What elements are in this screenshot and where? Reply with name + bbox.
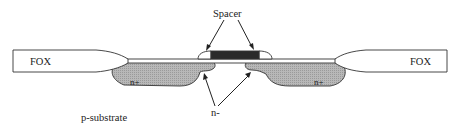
spacer-arrows <box>206 20 254 51</box>
fox-left-label: FOX <box>30 56 51 67</box>
n-minus-label: n- <box>211 107 220 118</box>
n-plus-region-left <box>112 62 215 86</box>
n-plus-region-right <box>245 62 345 86</box>
spacer-right <box>259 51 272 59</box>
fox-right-label: FOX <box>410 56 431 67</box>
thin-oxide-layer <box>118 59 344 63</box>
spacer-left <box>198 51 211 59</box>
spacer-label: Spacer <box>213 8 242 19</box>
n-plus-left-label: n+ <box>130 77 140 87</box>
gate-electrode <box>211 51 259 59</box>
n-plus-right-label: n+ <box>314 77 324 87</box>
p-substrate-label: p-substrate <box>81 112 127 123</box>
mosfet-cross-section-diagram: Spacer FOX FOX n+ n+ n- p-substrate <box>0 0 459 128</box>
n-minus-arrows <box>203 72 251 106</box>
